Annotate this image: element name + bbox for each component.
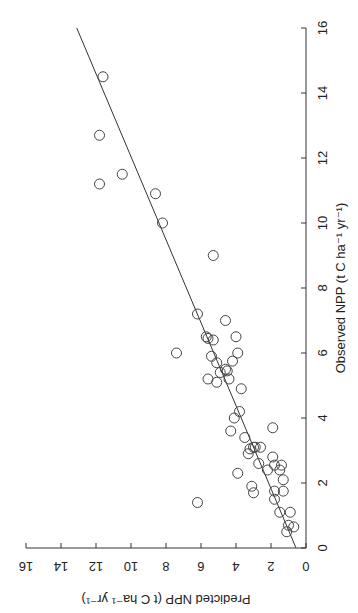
observed-tick-label: 16 — [315, 21, 330, 35]
data-point — [285, 507, 295, 517]
data-point — [247, 481, 257, 491]
predicted-tick-label: 14 — [54, 559, 68, 574]
observed-tick-label: 2 — [315, 479, 330, 486]
data-point — [231, 332, 241, 342]
predicted-tick-label: 10 — [124, 559, 138, 574]
data-point — [268, 423, 278, 433]
data-point — [193, 498, 203, 508]
axes: 02468101214160246810121416 — [19, 21, 331, 574]
scatter-chart: 02468101214160246810121416 Observed NPP … — [0, 0, 358, 613]
data-point — [282, 527, 292, 537]
observed-tick-label: 4 — [315, 414, 330, 421]
data-point — [95, 130, 105, 140]
data-point — [229, 413, 239, 423]
data-point — [117, 169, 127, 179]
data-point — [95, 179, 105, 189]
observed-tick-label: 6 — [315, 349, 330, 356]
observed-tick-label: 12 — [315, 151, 330, 165]
predicted-tick-label: 12 — [89, 559, 103, 574]
data-point — [172, 348, 182, 358]
data-point — [228, 356, 238, 366]
predicted-tick-label: 2 — [267, 559, 274, 574]
data-point — [249, 488, 259, 498]
data-point — [98, 72, 108, 82]
observed-tick-label: 8 — [315, 284, 330, 291]
observed-tick-label: 0 — [315, 544, 330, 551]
observed-tick-label: 10 — [315, 216, 330, 230]
data-point — [221, 316, 231, 326]
fit-line — [77, 28, 296, 548]
data-point — [263, 465, 273, 475]
data-point — [208, 251, 218, 261]
predicted-tick-label: 16 — [19, 559, 33, 574]
data-point — [226, 426, 236, 436]
observed-axis-title: Observed NPP (t C ha⁻¹ yr⁻¹) — [333, 203, 348, 374]
data-point — [236, 384, 246, 394]
data-point — [240, 433, 250, 443]
predicted-tick-label: 0 — [302, 559, 309, 574]
observed-tick-label: 14 — [315, 86, 330, 100]
predicted-tick-label: 8 — [162, 559, 169, 574]
predicted-tick-label: 6 — [197, 559, 204, 574]
data-point — [151, 189, 161, 199]
data-point — [278, 475, 288, 485]
predicted-tick-label: 4 — [232, 559, 239, 574]
predicted-axis-title: Predicted NPP (t C ha⁻¹ yr⁻¹) — [81, 592, 250, 607]
data-point — [233, 468, 243, 478]
regression-line — [77, 28, 296, 548]
data-point — [212, 377, 222, 387]
